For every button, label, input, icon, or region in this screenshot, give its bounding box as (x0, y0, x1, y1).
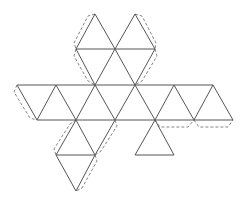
fold-edge (37, 85, 56, 120)
icosahedron-net-diagram (0, 0, 243, 204)
fold-edge (155, 85, 174, 120)
fold-edge (76, 14, 95, 49)
glue-tab (194, 120, 233, 127)
fold-edge (115, 14, 135, 49)
fold-edge (17, 85, 37, 120)
fold-edge (95, 85, 115, 120)
fold-edge (76, 120, 95, 155)
fold-edge (155, 120, 174, 155)
fold-edge (56, 85, 76, 120)
fold-edge (194, 85, 213, 120)
fold-edge (56, 155, 76, 191)
fold-edge (135, 14, 155, 49)
fold-edge (174, 85, 194, 120)
fold-edge (76, 49, 95, 85)
glue-tab (155, 120, 194, 127)
fold-edge (115, 85, 135, 120)
fold-edge (56, 120, 76, 155)
fold-edge (76, 85, 95, 120)
fold-edge (95, 120, 115, 155)
fold-edge (115, 49, 135, 85)
fold-edge (135, 120, 155, 155)
fold-edge (76, 155, 95, 191)
fold-edge (135, 85, 155, 120)
fold-edge (135, 49, 155, 85)
fold-edge (213, 85, 233, 120)
fold-edge (95, 14, 115, 49)
fold-edge (95, 49, 115, 85)
